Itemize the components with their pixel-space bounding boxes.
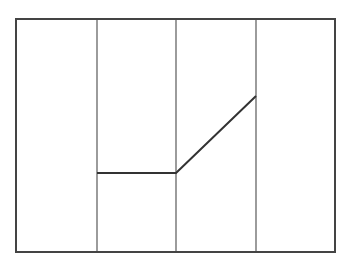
diagram-canvas — [0, 0, 344, 264]
diagram-background — [0, 0, 344, 264]
